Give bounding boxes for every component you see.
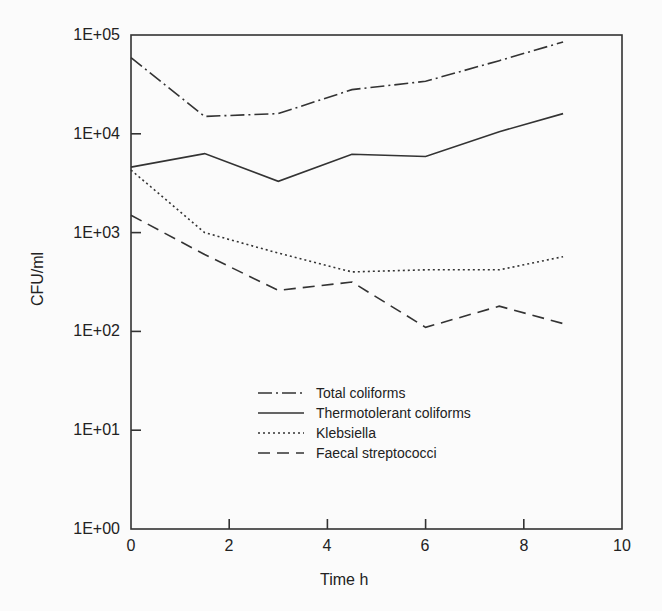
solid-line-swatch [258,408,304,418]
y-tick-label: 1E+04 [0,125,120,143]
legend-item: Total coliforms [258,383,471,403]
y-tick-label: 1E+05 [0,26,120,44]
y-tick-label: 1E+01 [0,421,120,439]
legend: Total coliforms Thermotolerant coliforms… [258,383,471,463]
series-line [131,215,563,327]
y-tick-label: 1E+02 [0,322,120,340]
legend-item: Faecal streptococci [258,443,471,463]
x-tick-label: 4 [307,537,347,555]
legend-label: Klebsiella [316,423,376,443]
x-axis-label: Time h [320,571,368,589]
y-axis-label: CFU/ml [29,239,47,319]
legend-label: Faecal streptococci [316,443,437,463]
x-tick-label: 10 [602,537,642,555]
series-line [131,114,563,182]
axis-ticks [131,134,524,529]
dashed-line-swatch [258,448,304,458]
x-tick-label: 2 [209,537,249,555]
x-tick-label: 8 [504,537,544,555]
legend-label: Total coliforms [316,383,405,403]
dashdot-line-swatch [258,388,304,398]
legend-label: Thermotolerant coliforms [316,403,471,423]
y-tick-label: 1E+00 [0,520,120,538]
dotted-line-swatch [258,428,304,438]
x-tick-label: 6 [405,537,445,555]
series-lines [131,42,563,327]
series-line [131,170,563,272]
legend-item: Klebsiella [258,423,471,443]
legend-item: Thermotolerant coliforms [258,403,471,423]
y-tick-label: 1E+03 [0,224,120,242]
series-line [131,42,563,116]
x-tick-label: 0 [111,537,151,555]
